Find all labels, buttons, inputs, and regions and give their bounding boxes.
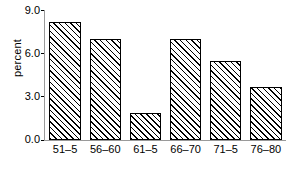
x-tick-label-5: 76–80 bbox=[246, 143, 286, 155]
bar-2 bbox=[130, 113, 161, 140]
x-tick-label-3: 66–70 bbox=[166, 143, 206, 155]
y-tick-label-9: 9.0 bbox=[14, 5, 40, 16]
bar-0 bbox=[49, 22, 80, 140]
x-axis-line bbox=[44, 140, 286, 141]
y-tick-label-6: 6.0 bbox=[14, 48, 40, 59]
x-tick-label-1: 56–60 bbox=[85, 143, 125, 155]
bar-5 bbox=[250, 87, 281, 140]
bar-chart: percent 9.0 6.0 3.0 0.0 51–5 56–60 61–5 … bbox=[0, 0, 293, 169]
x-tick-label-2: 61–5 bbox=[125, 143, 165, 155]
bar-1 bbox=[90, 39, 121, 140]
bar-4 bbox=[210, 61, 241, 140]
x-tick-label-0: 51–5 bbox=[45, 143, 85, 155]
x-tick-label-4: 71–5 bbox=[206, 143, 246, 155]
plot-area bbox=[45, 10, 286, 140]
y-tick-label-0: 0.0 bbox=[14, 134, 40, 145]
x-axis-tick-labels: 51–5 56–60 61–5 66–70 71–5 76–80 bbox=[45, 143, 286, 163]
bar-3 bbox=[170, 39, 201, 140]
y-axis-tick-labels: 9.0 6.0 3.0 0.0 bbox=[14, 0, 40, 169]
y-tick-label-3: 3.0 bbox=[14, 91, 40, 102]
